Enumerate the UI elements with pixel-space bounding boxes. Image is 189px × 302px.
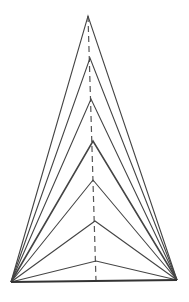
nested-triangles-diagram: [0, 0, 189, 302]
triangle-lines: [11, 16, 177, 282]
triangle-3: [11, 99, 177, 282]
base-line: [11, 280, 177, 282]
triangle-1: [11, 16, 177, 282]
triangle-2: [11, 58, 177, 282]
